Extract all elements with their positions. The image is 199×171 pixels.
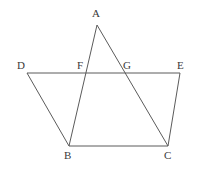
vertex-label-F: F bbox=[77, 60, 83, 71]
vertex-label-D: D bbox=[17, 60, 25, 71]
vertex-label-B: B bbox=[64, 150, 71, 161]
vertex-label-E: E bbox=[177, 60, 184, 71]
geometry-canvas bbox=[0, 0, 199, 171]
geometry-figure: A D F G E B C bbox=[0, 0, 199, 171]
vertex-label-A: A bbox=[92, 8, 100, 19]
segment-EC bbox=[168, 73, 180, 146]
segment-AB bbox=[69, 25, 97, 146]
segment-AC bbox=[97, 25, 168, 146]
segment-DB bbox=[27, 73, 69, 146]
vertex-label-G: G bbox=[123, 60, 131, 71]
vertex-label-C: C bbox=[164, 150, 171, 161]
